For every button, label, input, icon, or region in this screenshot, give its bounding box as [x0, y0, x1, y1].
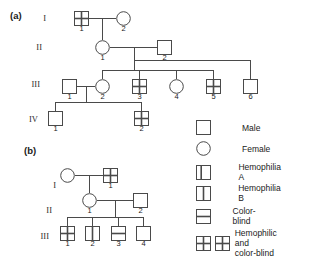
panel-a-sib-drop-iii-3 — [139, 70, 140, 79]
panel-a-individual-iv-1-number: 1 — [48, 125, 63, 133]
hemophilia-a-icon — [196, 165, 238, 180]
legend-item-color-blind: Color-blind — [196, 206, 265, 226]
panel-a-individual-iv-2-number: 2 — [134, 125, 149, 133]
panel-a-sib-drop-iv-1 — [55, 102, 56, 111]
panel-b-descent-line-ii — [115, 200, 116, 217]
hemophilia-b-icon — [196, 186, 238, 201]
legend-item-hemophilia-b: Hemophilia B — [196, 183, 285, 203]
panel-b-sib-drop-iii-4 — [143, 217, 144, 226]
panel-a-descent-line-ii — [134, 47, 135, 70]
legend-item-male: Male — [196, 120, 260, 135]
panel-a-sib-drop-iii-5 — [213, 70, 214, 79]
panel-b-sib-drop-iii-3 — [118, 217, 119, 226]
panel-b-individual-iii-4-number: 4 — [136, 240, 151, 248]
panel-a-descent-line-i — [102, 18, 103, 40]
legend-item-hemophilic-and-color-blind: Hemophilic and color-blind — [196, 228, 284, 258]
legend-label-female: Female — [242, 144, 270, 154]
panel-a-individual-iii-4-number: 4 — [169, 93, 184, 101]
panel-a-individual-iii-1-number: 1 — [62, 93, 77, 101]
legend-label-hemophilic-and-color-blind: Hemophilic and color-blind — [235, 228, 284, 258]
panel-a-individual-iii-3-number: 3 — [132, 93, 147, 101]
panel-a-descent-line-iii — [86, 86, 87, 102]
panel-b-generation-label-i: I — [38, 180, 56, 190]
panel-a-sibship-bar-iv — [55, 102, 141, 103]
hemophilic-and-color-blind-icon — [196, 236, 235, 251]
panel-b-individual-i-female[interactable] — [60, 168, 75, 183]
panel-a-individual-ii-1-number: 1 — [95, 54, 110, 62]
panel-a-sib-drop-iii-4 — [176, 70, 177, 79]
male-icon — [196, 120, 242, 135]
panel-a-generation-label-iv: IV — [20, 114, 38, 124]
panel-b-generation-label-iii: III — [31, 231, 49, 241]
legend-label-color-blind: Color-blind — [233, 206, 266, 226]
panel-a-sibship-bar-iii-right — [134, 60, 250, 61]
legend-item-hemophilia-a: Hemophilia A — [196, 162, 285, 182]
panel-a-individual-iii-6-number: 6 — [243, 93, 258, 101]
panel-a-generation-label-ii: II — [24, 42, 42, 52]
legend-label-hemophilia-a: Hemophilia A — [238, 162, 284, 182]
panel-b-sib-drop-iii-1 — [67, 217, 68, 226]
panel-a-sib-drop-iv-2 — [141, 102, 142, 111]
panel-b-sib-drop-iii-2 — [92, 217, 93, 226]
panel-a-generation-label-i: I — [28, 13, 46, 23]
panel-b-label: (b) — [24, 145, 36, 156]
panel-a-individual-i-1-number: 1 — [74, 25, 89, 33]
panel-a-individual-iii-2-number: 2 — [95, 93, 110, 101]
panel-b-sibship-bar-iii — [67, 217, 143, 218]
legend-item-female: Female — [196, 141, 270, 156]
female-icon — [196, 141, 242, 156]
panel-b-individual-ii-1-number: 1 — [82, 207, 97, 215]
panel-a-sibship-bar-iii — [102, 70, 213, 71]
panel-a-individual-i-2-number: 2 — [116, 25, 131, 33]
panel-a-sib-drop-iii-6 — [250, 60, 251, 79]
panel-a-individual-iii-5-number: 5 — [206, 93, 221, 101]
color-blind-icon — [196, 209, 233, 224]
panel-a-label: (a) — [10, 10, 22, 21]
panel-a-sib-drop-iii-2 — [102, 70, 103, 79]
panel-b-individual-ii-2-number: 2 — [133, 207, 148, 215]
panel-a-generation-label-iii: III — [22, 79, 40, 89]
legend-label-male: Male — [242, 123, 260, 133]
legend-label-hemophilia-b: Hemophilia B — [238, 183, 284, 203]
panel-b-individual-i-1-number: 1 — [103, 182, 118, 190]
panel-b-descent-line-i — [89, 175, 90, 193]
panel-b-generation-label-ii: II — [34, 205, 52, 215]
panel-b-individual-iii-2-number: 2 — [85, 240, 100, 248]
panel-b-individual-iii-3-number: 3 — [111, 240, 126, 248]
panel-b-individual-iii-1-number: 1 — [60, 240, 75, 248]
pedigree-figure: (a) I II III IV 1 2 1 2 — [0, 0, 335, 265]
